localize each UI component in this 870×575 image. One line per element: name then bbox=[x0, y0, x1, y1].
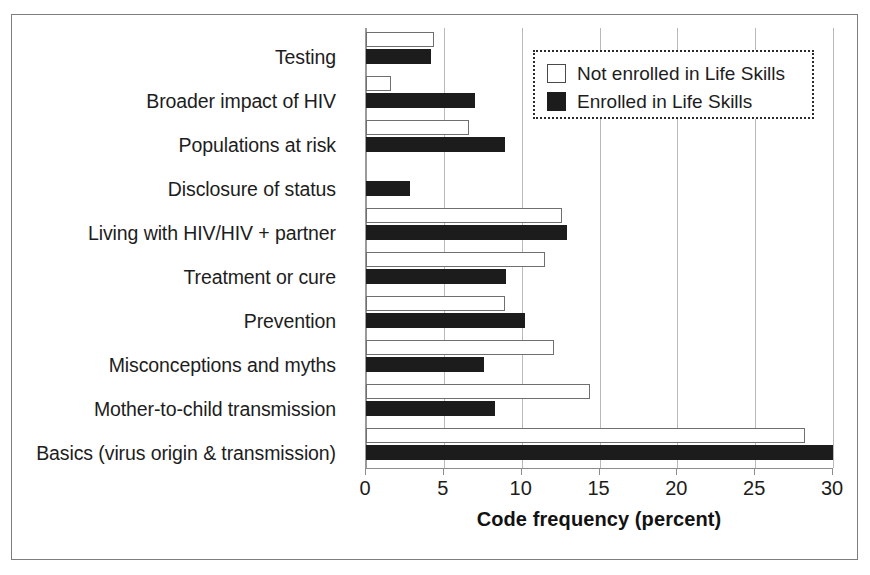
bar-not-enrolled-4 bbox=[366, 208, 562, 223]
bar-row bbox=[366, 380, 832, 424]
bar-enrolled-3 bbox=[366, 181, 410, 196]
x-tick-5 bbox=[443, 468, 444, 475]
x-tick-30 bbox=[832, 468, 833, 475]
bar-enrolled-6 bbox=[366, 313, 525, 328]
bar-not-enrolled-9 bbox=[366, 428, 805, 443]
x-tick-label-0: 0 bbox=[359, 478, 370, 498]
x-tick-label-25: 25 bbox=[743, 478, 765, 498]
bar-row bbox=[366, 160, 832, 204]
bar-row bbox=[366, 248, 832, 292]
x-tick-25 bbox=[754, 468, 755, 475]
x-tick-label-30: 30 bbox=[821, 478, 843, 498]
legend-item-not-enrolled: Not enrolled in Life Skills bbox=[547, 59, 802, 87]
x-tick-label-10: 10 bbox=[510, 478, 532, 498]
category-label-6: Prevention bbox=[0, 312, 336, 332]
x-axis-title: Code frequency (percent) bbox=[365, 508, 833, 531]
bar-row bbox=[366, 204, 832, 248]
category-label-5: Treatment or cure bbox=[0, 268, 336, 288]
bar-enrolled-0 bbox=[366, 49, 431, 64]
bar-not-enrolled-1 bbox=[366, 76, 391, 91]
bar-enrolled-7 bbox=[366, 357, 484, 372]
x-tick-label-5: 5 bbox=[437, 478, 448, 498]
bar-row bbox=[366, 292, 832, 336]
category-label-8: Mother-to-child transmission bbox=[0, 400, 336, 420]
bar-not-enrolled-5 bbox=[366, 252, 545, 267]
bar-enrolled-4 bbox=[366, 225, 567, 240]
category-label-7: Misconceptions and myths bbox=[0, 356, 336, 376]
category-label-3: Disclosure of status bbox=[0, 180, 336, 200]
bar-enrolled-8 bbox=[366, 401, 495, 416]
gridline-30 bbox=[833, 28, 834, 468]
category-label-2: Populations at risk bbox=[0, 136, 336, 156]
filled-square-icon bbox=[547, 92, 566, 111]
category-label-9: Basics (virus origin & transmission) bbox=[0, 444, 336, 464]
category-label-4: Living with HIV/HIV + partner bbox=[0, 224, 336, 244]
legend-item-enrolled: Enrolled in Life Skills bbox=[547, 87, 802, 115]
bar-row bbox=[366, 424, 832, 468]
category-label-0: Testing bbox=[0, 48, 336, 68]
bar-enrolled-5 bbox=[366, 269, 506, 284]
category-label-1: Broader impact of HIV bbox=[0, 92, 336, 112]
bar-not-enrolled-2 bbox=[366, 120, 469, 135]
x-tick-15 bbox=[599, 468, 600, 475]
x-tick-label-20: 20 bbox=[665, 478, 687, 498]
x-tick-20 bbox=[676, 468, 677, 475]
bar-row bbox=[366, 336, 832, 380]
bar-not-enrolled-0 bbox=[366, 32, 434, 47]
category-axis-labels: TestingBroader impact of HIVPopulations … bbox=[0, 14, 348, 454]
x-tick-label-15: 15 bbox=[587, 478, 609, 498]
x-tick-10 bbox=[521, 468, 522, 475]
bar-enrolled-9 bbox=[366, 445, 833, 460]
legend-label-enrolled: Enrolled in Life Skills bbox=[577, 92, 752, 111]
bar-row bbox=[366, 116, 832, 160]
bar-not-enrolled-7 bbox=[366, 340, 554, 355]
bar-enrolled-1 bbox=[366, 93, 475, 108]
legend-label-not-enrolled: Not enrolled in Life Skills bbox=[577, 64, 785, 83]
bar-not-enrolled-8 bbox=[366, 384, 590, 399]
x-tick-0 bbox=[365, 468, 366, 475]
chart-legend: Not enrolled in Life Skills Enrolled in … bbox=[533, 50, 814, 119]
bar-enrolled-2 bbox=[366, 137, 505, 152]
hollow-square-icon bbox=[547, 64, 566, 83]
bar-not-enrolled-6 bbox=[366, 296, 505, 311]
